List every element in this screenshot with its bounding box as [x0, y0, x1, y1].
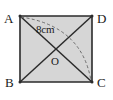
- vertex-dot-c: [91, 81, 94, 84]
- center-label-o: O: [51, 56, 59, 67]
- vertex-label-b: B: [5, 76, 14, 89]
- vertex-dot-b: [19, 81, 22, 84]
- vertex-label-d: D: [97, 12, 106, 25]
- diagonal-measure-label: 8cm: [36, 24, 54, 35]
- geometry-figure: A D C B O 8cm: [0, 0, 113, 100]
- vertex-label-c: C: [97, 76, 106, 89]
- vertex-dot-d: [91, 15, 94, 18]
- vertex-label-a: A: [4, 12, 13, 25]
- vertex-dot-a: [19, 15, 22, 18]
